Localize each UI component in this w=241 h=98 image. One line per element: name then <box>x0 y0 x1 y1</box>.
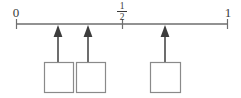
arrow-up-icon <box>84 25 93 37</box>
pointer-1-group <box>54 25 63 62</box>
figure-canvas: 0 1 2 1 <box>0 0 241 98</box>
number-line-figure: 0 1 2 1 <box>0 0 241 98</box>
tick-label-1: 1 <box>225 5 232 20</box>
tick-label-0: 0 <box>13 5 20 20</box>
arrow-up-icon <box>161 25 170 37</box>
arrow-up-icon <box>54 25 63 37</box>
answer-box-2[interactable] <box>77 63 106 93</box>
tick-label-one-half-denominator: 2 <box>120 12 125 22</box>
pointer-2-group <box>84 25 93 62</box>
tick-label-one-half-numerator: 1 <box>120 1 125 11</box>
answer-box-3[interactable] <box>151 63 181 93</box>
answer-box-1[interactable] <box>45 63 74 93</box>
pointer-3-group <box>161 25 170 62</box>
